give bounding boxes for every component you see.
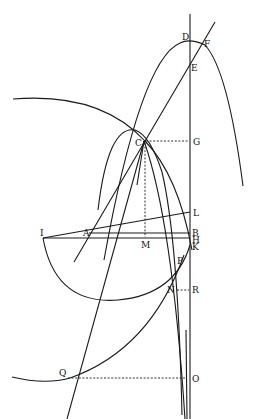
label-r: R — [192, 285, 199, 295]
geometry-figure: D F E G C L I A B H M K P N R Q O — [0, 0, 259, 419]
label-f: F — [204, 39, 210, 49]
label-a: A — [82, 228, 90, 238]
inner-parabola — [98, 130, 182, 415]
label-g: G — [193, 137, 200, 147]
line-il — [43, 212, 190, 238]
label-k: K — [192, 242, 199, 252]
axis-lower-line — [186, 330, 187, 419]
label-p: P — [177, 256, 183, 266]
diagram-canvas: D F E G C L I A B H M K P N R Q O — [0, 0, 259, 419]
label-l: L — [193, 208, 199, 218]
label-d: D — [182, 32, 189, 42]
label-e: E — [191, 63, 198, 73]
lower-curve-qnp — [12, 255, 184, 381]
label-c: C — [135, 138, 142, 148]
line-through-c-left — [67, 141, 144, 419]
upper-parabola — [104, 41, 243, 260]
label-q: Q — [59, 368, 66, 378]
label-n: N — [167, 285, 175, 295]
label-o: O — [192, 374, 199, 384]
label-m: M — [141, 240, 150, 250]
label-i: I — [40, 228, 44, 238]
